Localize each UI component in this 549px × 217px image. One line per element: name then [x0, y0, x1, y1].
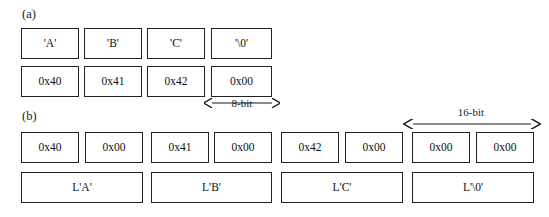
wide-char-cell: L'A' — [21, 172, 143, 203]
panel-a-label: (a) — [22, 8, 36, 21]
panel-b-label: (b) — [22, 110, 37, 123]
byte-cell: 0x40 — [21, 66, 79, 97]
byte-cell: 'A' — [21, 28, 79, 59]
byte-cell: 0x41 — [151, 132, 209, 163]
byte-cell: 0x00 — [412, 132, 470, 163]
figure-canvas: (a) 'A' 'B' 'C' '\0' 0x40 0x41 0x42 0x00… — [0, 0, 549, 217]
wide-char-cell: L'C' — [281, 172, 403, 203]
byte-cell: 0x00 — [211, 66, 272, 97]
byte-cell: 0x41 — [84, 66, 142, 97]
sixteen-bit-dimension-arrow — [410, 117, 534, 131]
byte-cell: 0x00 — [345, 132, 403, 163]
byte-cell: '\0' — [211, 28, 272, 59]
eight-bit-dimension-label: 8-bit — [209, 98, 275, 109]
byte-cell: 0x00 — [85, 132, 143, 163]
byte-cell: 'B' — [84, 28, 142, 59]
byte-cell: 'C' — [147, 28, 205, 59]
wide-char-cell: L'\0' — [412, 172, 534, 203]
byte-cell: 0x00 — [214, 132, 272, 163]
wide-char-cell: L'B' — [151, 172, 272, 203]
byte-cell: 0x42 — [147, 66, 205, 97]
byte-cell: 0x40 — [21, 132, 79, 163]
byte-cell: 0x00 — [476, 132, 534, 163]
byte-cell: 0x42 — [281, 132, 339, 163]
